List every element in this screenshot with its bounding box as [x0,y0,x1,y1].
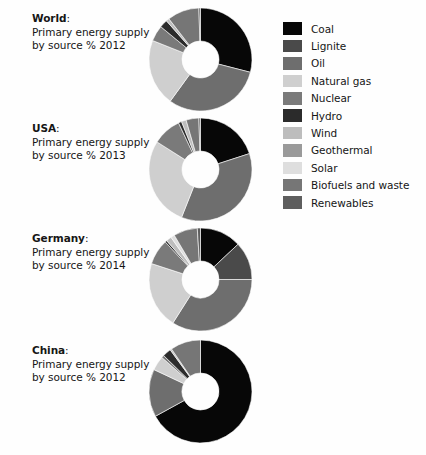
legend-item: Nuclear [283,90,423,107]
chart-description: Primary energy supply by source % 2014 [32,246,152,273]
legend-item: Wind [283,124,423,141]
chart-caption: Germany: Primary energy supply by source… [32,232,152,273]
donut-chart-china [148,339,253,444]
legend-item: Biofuels and waste [283,177,423,194]
chart-region-suffix: : [65,344,69,356]
donut-svg [148,7,253,112]
donut-slice-oil [173,280,252,332]
chart-description: Primary energy supply by source % 2012 [32,26,152,53]
donut-slice-coal [201,8,253,72]
legend-label: Geothermal [311,144,372,156]
donut-chart-world [148,7,253,112]
chart-row-china: China: Primary energy supply by source %… [0,334,275,444]
legend-label: Wind [311,127,337,139]
chart-region-label: USA [32,122,56,134]
legend-label: Renewables [311,197,373,209]
chart-region-suffix: : [56,122,60,134]
chart-row-world: World: Primary energy supply by source %… [0,2,275,112]
legend-swatch [283,22,302,35]
donut-svg [148,227,253,332]
chart-region-label: Germany [32,232,85,244]
legend-swatch [283,109,302,122]
legend-swatch [283,75,302,88]
chart-caption: World: Primary energy supply by source %… [32,12,152,53]
legend-label: Lignite [311,40,346,52]
legend-label: Natural gas [311,75,371,87]
legend-label: Biofuels and waste [311,179,409,191]
legend-label: Nuclear [311,92,351,104]
chart-caption: China: Primary energy supply by source %… [32,344,152,385]
chart-row-usa: USA: Primary energy supply by source % 2… [0,112,275,222]
legend-label: Oil [311,57,325,69]
legend-swatch [283,127,302,140]
legend-item: Natural gas [283,72,423,89]
donut-chart-usa [148,117,253,222]
legend-item: Lignite [283,37,423,54]
legend: CoalLigniteOilNatural gasNuclearHydroWin… [283,20,423,211]
legend-swatch [283,92,302,105]
legend-swatch [283,57,302,70]
chart-description: Primary energy supply by source % 2013 [32,136,152,163]
legend-swatch [283,179,302,192]
legend-label: Hydro [311,110,342,122]
chart-region-suffix: : [85,232,89,244]
legend-swatch [283,40,302,53]
donut-svg [148,339,253,444]
chart-region-label: World [32,12,66,24]
legend-swatch [283,162,302,175]
legend-label: Solar [311,162,338,174]
legend-item: Geothermal [283,142,423,159]
chart-description: Primary energy supply by source % 2012 [32,358,152,385]
energy-supply-figure: World: Primary energy supply by source %… [0,0,426,455]
legend-item: Solar [283,159,423,176]
legend-item: Hydro [283,107,423,124]
chart-caption: USA: Primary energy supply by source % 2… [32,122,152,163]
chart-region-label: China [32,344,65,356]
legend-label: Coal [311,23,334,35]
chart-region-suffix: : [66,12,70,24]
chart-row-germany: Germany: Primary energy supply by source… [0,222,275,332]
legend-swatch [283,144,302,157]
legend-item: Renewables [283,194,423,211]
donut-svg [148,117,253,222]
legend-item: Oil [283,55,423,72]
legend-swatch [283,196,302,209]
donut-chart-germany [148,227,253,332]
legend-item: Coal [283,20,423,37]
